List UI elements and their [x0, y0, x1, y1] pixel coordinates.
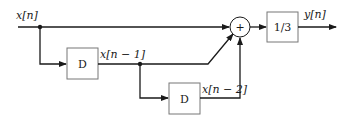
plus-icon: +: [235, 21, 244, 34]
delay-2-label: D: [180, 93, 189, 106]
block-diagram: x[n] D x[n − 1] D x[n − 2] + 1/3 y[n]: [0, 0, 340, 117]
output-label: y[n]: [303, 8, 327, 21]
gain-block: 1/3: [267, 12, 298, 42]
summer-node: +: [230, 17, 250, 37]
gain-label: 1/3: [274, 21, 292, 34]
delay-1-label: D: [78, 58, 87, 71]
delay-1-output-label: x[n − 1]: [100, 48, 146, 61]
branch-wire-2: [140, 64, 168, 98]
delay-block-1: D: [67, 48, 98, 79]
delay-block-2: D: [169, 83, 200, 114]
delay-2-output-label: x[n − 2]: [202, 83, 248, 96]
branch-wire-1: [40, 27, 66, 64]
input-label: x[n]: [16, 9, 39, 22]
